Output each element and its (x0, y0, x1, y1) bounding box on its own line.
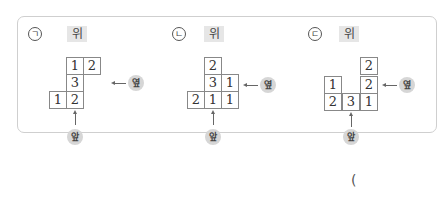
side-label-c: 옆 (399, 77, 415, 93)
cell-b-2-0: 2 (187, 91, 205, 109)
side-label-b: 옆 (260, 77, 276, 93)
cell-b-1-2: 1 (221, 74, 239, 92)
cell-a-1-1: 3 (66, 74, 84, 92)
front-label-c: 앞 (343, 129, 359, 145)
marker-c: ㄷ (308, 27, 322, 41)
answer-parenthesis: ( (351, 172, 356, 188)
cell-a-0-1: 1 (66, 57, 84, 75)
cell-c-2-1: 3 (342, 93, 360, 111)
problem-panel: ㄱ 위 1 2 3 1 2 옆 앞 ㄴ 위 2 3 1 2 1 1 옆 앞 ㄷ … (17, 16, 437, 133)
top-label-a: 위 (67, 26, 87, 42)
cell-a-2-0: 1 (49, 91, 67, 109)
side-arrow-icon (246, 85, 258, 86)
marker-a: ㄱ (28, 27, 42, 41)
cell-a-2-1: 2 (66, 91, 84, 109)
front-label-b: 앞 (205, 129, 221, 145)
cell-a-0-2: 2 (83, 57, 101, 75)
front-arrow-icon (75, 113, 76, 125)
cell-b-2-1: 1 (204, 91, 222, 109)
cell-b-2-2: 1 (221, 91, 239, 109)
cell-c-2-2: 1 (360, 93, 378, 111)
front-arrow-icon (351, 115, 352, 127)
side-arrow-icon (114, 83, 126, 84)
front-arrow-icon (213, 113, 214, 125)
cell-b-1-1: 3 (204, 74, 222, 92)
side-arrow-icon (385, 85, 397, 86)
cell-c-2-0: 2 (324, 93, 342, 111)
cell-c-1-0: 1 (324, 76, 342, 94)
cell-c-1-2: 2 (360, 76, 378, 94)
cell-b-0-1: 2 (204, 57, 222, 75)
top-label-c: 위 (339, 26, 359, 42)
front-label-a: 앞 (67, 129, 83, 145)
side-label-a: 옆 (128, 75, 144, 91)
marker-b: ㄴ (172, 27, 186, 41)
cell-c-0-2: 2 (360, 57, 378, 75)
top-label-b: 위 (204, 26, 224, 42)
